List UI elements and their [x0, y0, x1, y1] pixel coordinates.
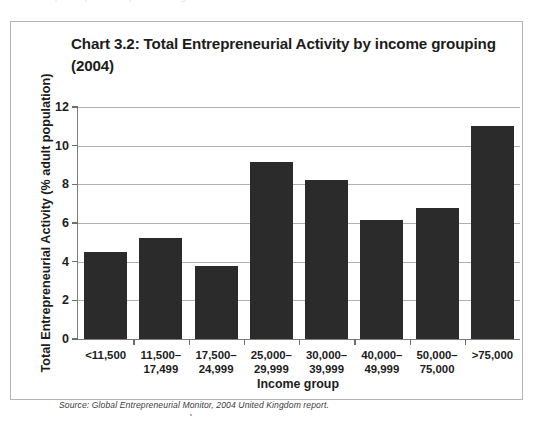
y-axis-tick-label: 10	[55, 139, 69, 153]
x-axis-tick-label: 40,000– 49,999	[361, 348, 402, 376]
source-note: Source: Global Entrepreneurial Monitor, …	[59, 400, 329, 410]
x-axis-tick-label: 11,500– 17,499	[141, 348, 182, 376]
y-axis-title: Total Entrepreneurial Activity (% adult …	[37, 107, 55, 339]
x-axis-tick-label: 25,000– 29,999	[251, 348, 292, 376]
chart-title: Chart 3.2: Total Entrepreneurial Activit…	[71, 33, 511, 76]
x-axis-tick-label: 17,500– 24,999	[196, 348, 237, 376]
bar	[360, 220, 403, 339]
x-axis-title: Income group	[77, 377, 519, 391]
x-axis-tick	[299, 339, 300, 345]
y-axis-tick-label: 6	[62, 216, 69, 230]
x-axis-tick-label: <11,500	[85, 348, 126, 362]
x-axis-tick	[465, 339, 466, 345]
bar	[305, 180, 348, 340]
bar	[471, 126, 514, 339]
bar	[416, 208, 459, 339]
bar	[195, 266, 238, 339]
bar-series: <11,50011,500– 17,49917,500– 24,99925,00…	[78, 107, 520, 339]
y-axis-tick-label: 4	[62, 255, 69, 269]
x-axis-tick-label: 30,000– 39,999	[306, 348, 347, 376]
x-axis-tick-label: >75,000	[472, 348, 514, 362]
x-axis-tick	[410, 339, 411, 345]
x-axis-tick	[133, 339, 134, 345]
y-axis-title-label: Total Entrepreneurial Activity (% adult …	[39, 74, 53, 373]
plot-area: 024681012 <11,50011,500– 17,49917,500– 2…	[77, 107, 520, 340]
page-marker-dot	[190, 414, 192, 416]
x-axis-tick-label: 50,000– 75,000	[417, 348, 458, 376]
scan-artifact-text: a b e r o f p e o p l e r e p o r t i n …	[0, 0, 187, 2]
y-axis-tick-label: 12	[55, 100, 69, 114]
bar	[84, 252, 127, 339]
bar	[250, 162, 293, 339]
bar	[139, 238, 182, 340]
y-axis-tick-label: 8	[62, 177, 69, 191]
scan-artifact: a b e r o f p e o p l e r e p o r t i n …	[0, 0, 535, 9]
y-axis-tick-label: 0	[62, 332, 69, 346]
x-axis-tick	[244, 339, 245, 345]
figure-frame: Chart 3.2: Total Entrepreneurial Activit…	[10, 21, 523, 400]
x-axis-tick	[354, 339, 355, 345]
x-axis-tick	[189, 339, 190, 345]
y-axis-tick-label: 2	[62, 293, 69, 307]
